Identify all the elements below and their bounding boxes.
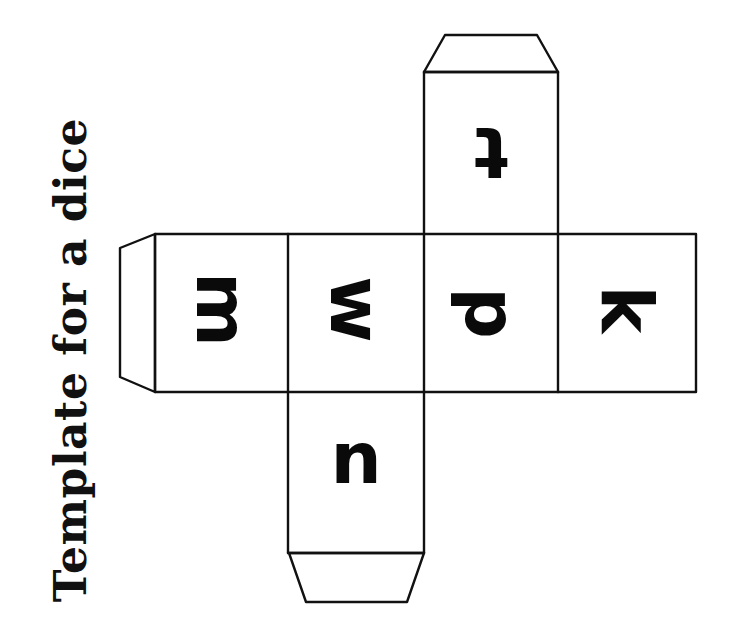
- face-letter-u: u: [330, 433, 381, 505]
- glue-tab-top: [424, 35, 558, 72]
- face-letter-p: p: [455, 287, 527, 339]
- glue-tab-left: [120, 234, 155, 392]
- face-letter-k: k: [591, 285, 663, 333]
- dice-template-sheet: Template for a dice m w p k t u: [0, 0, 734, 634]
- face-bottom: u: [288, 392, 424, 553]
- glue-tab-bottom: [289, 553, 424, 602]
- face-letter-m: m: [186, 272, 258, 347]
- face-left-center: w: [288, 234, 424, 392]
- face-right-end: k: [558, 234, 696, 392]
- face-center: p: [424, 234, 558, 392]
- face-top: t: [424, 72, 558, 234]
- face-letter-w: w: [320, 276, 392, 343]
- face-letter-t: t: [474, 117, 508, 189]
- face-left-end: m: [155, 234, 288, 392]
